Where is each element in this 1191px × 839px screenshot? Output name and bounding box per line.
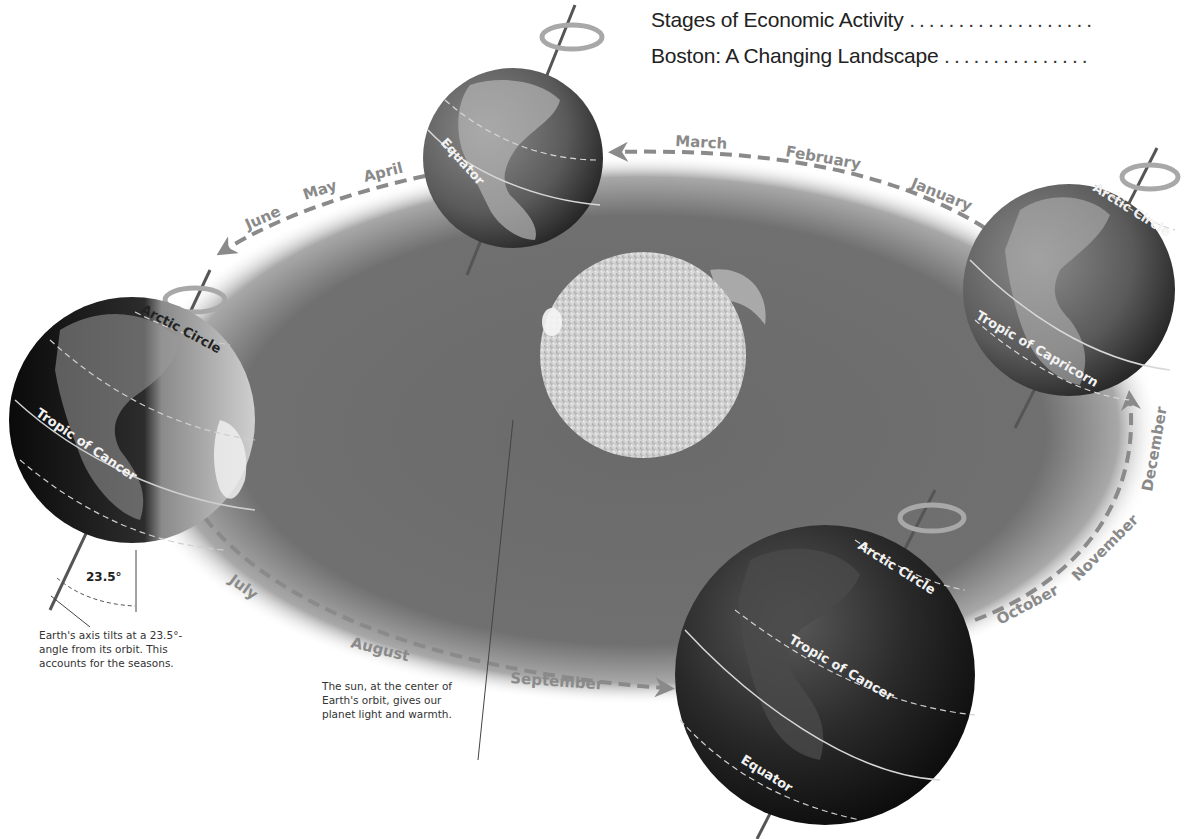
sun-caption: The sun, at the center of Earth's orbit,… bbox=[322, 679, 452, 721]
sun-disk bbox=[540, 252, 746, 458]
caption-line: Earth's orbit, gives our bbox=[322, 693, 452, 707]
month-label-march: March bbox=[675, 132, 728, 153]
earth-orbit-diagram: March February January April May June Ju… bbox=[0, 0, 1191, 839]
caption-line: accounts for the seasons. bbox=[39, 656, 182, 670]
tilt-angle-label: 23.5° bbox=[86, 570, 122, 584]
month-label-may: May bbox=[301, 176, 339, 204]
sun-flare bbox=[542, 308, 562, 336]
caption-pointer-line bbox=[51, 596, 90, 627]
caption-line: Earth's axis tilts at a 23.5°- bbox=[39, 628, 182, 642]
tilt-angle-annotation: 23.5° bbox=[51, 550, 136, 627]
tilt-caption: Earth's axis tilts at a 23.5°- angle fro… bbox=[39, 628, 182, 670]
caption-line: angle from its orbit. This bbox=[39, 642, 182, 656]
rotation-arrow-icon bbox=[542, 25, 602, 49]
caption-line: The sun, at the center of bbox=[322, 679, 452, 693]
rotation-arrow-icon bbox=[1122, 165, 1178, 189]
caption-line: planet light and warmth. bbox=[322, 707, 452, 721]
